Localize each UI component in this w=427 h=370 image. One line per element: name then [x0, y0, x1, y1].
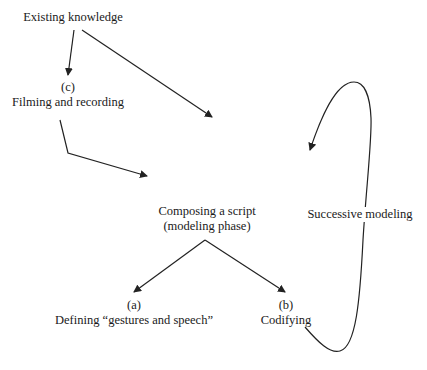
arrow-composing-to-defining [134, 240, 205, 292]
node-label-line1: Composing a script [158, 204, 255, 219]
edge-label: Successive modeling [307, 207, 412, 221]
node-label: Filming and recording [12, 95, 124, 110]
edge-label-successive-modeling: Successive modeling [305, 207, 414, 222]
node-label: Existing knowledge [23, 10, 123, 24]
node-existing-knowledge: Existing knowledge [23, 10, 123, 25]
process-diagram: Existing knowledge (c) Filming and recor… [0, 0, 427, 370]
arrow-knowledge-to-filming [68, 30, 74, 75]
node-label: Codifying [261, 313, 312, 328]
node-tag: (a) [55, 298, 213, 313]
node-defining-gestures: (a) Defining “gestures and speech” [55, 298, 213, 328]
node-codifying: (b) Codifying [261, 298, 312, 328]
node-tag: (c) [12, 80, 124, 95]
node-label: Defining “gestures and speech” [55, 313, 213, 328]
node-tag: (b) [261, 298, 312, 313]
arrow-composing-to-codifying [205, 240, 285, 292]
arrow-filming-to-composing [60, 120, 147, 176]
node-label-line2: (modeling phase) [158, 219, 255, 234]
node-filming-recording: (c) Filming and recording [12, 80, 124, 110]
node-composing-script: Composing a script (modeling phase) [158, 204, 255, 234]
